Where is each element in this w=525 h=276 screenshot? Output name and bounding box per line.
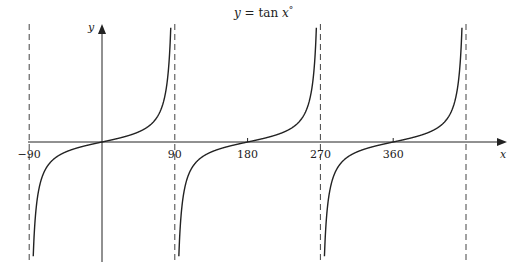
x-tick-label: 270 [310, 148, 331, 161]
x-tick-label: 180 [237, 148, 258, 161]
x-tick-label: −90 [18, 148, 41, 161]
x-tick-label: 360 [383, 148, 404, 161]
x-tick-label: 90 [168, 148, 182, 161]
tan-graph: −9090180270360 x y y = tan x° [0, 0, 525, 276]
y-axis-arrow-icon [98, 24, 106, 34]
x-axis-label: x [500, 148, 507, 161]
chart-title: y = tan x° [233, 5, 293, 20]
plot-area: −9090180270360 x y y = tan x° [0, 0, 525, 276]
title-deg: ° [289, 5, 294, 15]
y-axis-label: y [87, 21, 95, 34]
x-axis-arrow-icon [497, 138, 507, 146]
title-eq: = tan [241, 6, 282, 20]
